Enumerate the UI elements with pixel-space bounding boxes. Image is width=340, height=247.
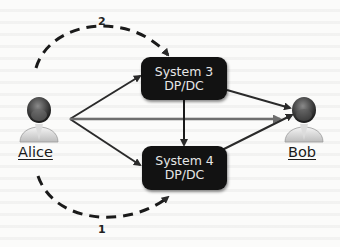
bob-avatar-icon <box>285 97 323 142</box>
arrow-system3-bob <box>227 90 290 108</box>
system4-node: System 4 DP/DC <box>142 146 227 190</box>
arrow-alice-system3 <box>70 76 140 119</box>
system4-subtitle: DP/DC <box>142 168 227 182</box>
system3-subtitle: DP/DC <box>141 79 227 93</box>
arrow-alice-system4 <box>70 119 140 165</box>
alice-avatar-icon <box>20 97 58 142</box>
dashed-path-1-label: 1 <box>98 223 106 236</box>
system4-title: System 4 <box>142 154 227 168</box>
bob-label: Bob <box>288 144 316 160</box>
system3-title: System 3 <box>141 65 227 79</box>
alice-label: Alice <box>18 144 53 160</box>
diagram-canvas <box>0 0 340 247</box>
system3-node: System 3 DP/DC <box>141 57 227 100</box>
dashed-path-2-label: 2 <box>98 15 106 28</box>
